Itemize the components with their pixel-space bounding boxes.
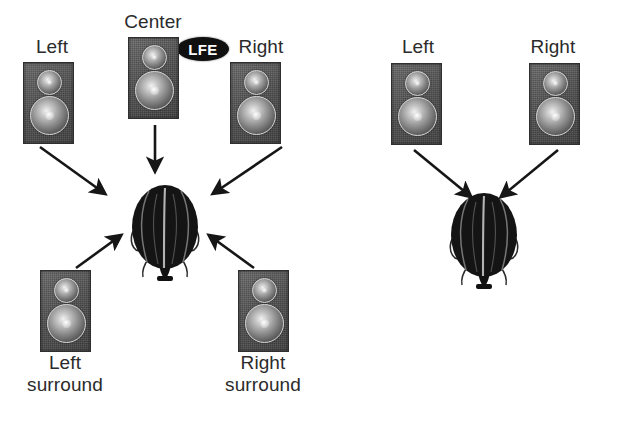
label-right-surround-line1: Right xyxy=(241,352,286,373)
arrow-stereo-right-to-listener xyxy=(482,148,560,210)
speaker-right-front xyxy=(230,62,281,144)
woofer-icon xyxy=(245,304,284,343)
lfe-label: LFE xyxy=(188,41,218,58)
speaker-center-front xyxy=(128,37,179,119)
woofer-icon xyxy=(536,97,575,136)
speaker-left-surround xyxy=(40,270,91,352)
woofer-icon xyxy=(47,304,86,343)
speaker-right-surround xyxy=(238,270,289,352)
tweeter-icon xyxy=(142,45,167,70)
tweeter-icon xyxy=(405,71,430,96)
caption-clipped-row xyxy=(0,416,619,422)
arrow-right-surround-to-listener xyxy=(198,228,256,270)
woofer-icon xyxy=(237,96,276,135)
diagram-canvas: Left Center Right LFE Left surround Righ… xyxy=(0,0,619,422)
arrow-left-front-to-listener xyxy=(38,145,128,205)
listener-head-surround xyxy=(127,182,203,282)
arrow-stereo-left-to-listener xyxy=(412,148,490,210)
label-left-surround-line2: surround xyxy=(27,374,103,395)
label-left-front: Left xyxy=(26,36,78,57)
speaker-left-front xyxy=(23,62,74,144)
arrow-left-surround-to-listener xyxy=(74,228,132,270)
label-right-surround-line2: surround xyxy=(225,374,301,395)
label-right-front: Right xyxy=(230,36,292,57)
label-right-surround: Right surround xyxy=(212,352,314,396)
label-left-surround: Left surround xyxy=(14,352,116,396)
speaker-stereo-left xyxy=(391,63,442,145)
label-center-front: Center xyxy=(118,11,188,32)
arrow-center-to-listener xyxy=(146,124,164,182)
woofer-icon xyxy=(398,97,437,136)
tweeter-icon xyxy=(244,70,269,95)
tweeter-icon xyxy=(252,278,277,303)
arrow-right-front-to-listener xyxy=(198,145,284,205)
tweeter-icon xyxy=(543,71,568,96)
label-left-surround-line1: Left xyxy=(49,352,81,373)
speaker-stereo-right xyxy=(529,63,580,145)
woofer-icon xyxy=(30,96,69,135)
label-stereo-right: Right xyxy=(522,36,584,57)
tweeter-icon xyxy=(37,70,62,95)
woofer-icon xyxy=(135,71,174,110)
tweeter-icon xyxy=(54,278,79,303)
lfe-badge: LFE xyxy=(177,37,229,61)
label-stereo-left: Left xyxy=(390,36,446,57)
